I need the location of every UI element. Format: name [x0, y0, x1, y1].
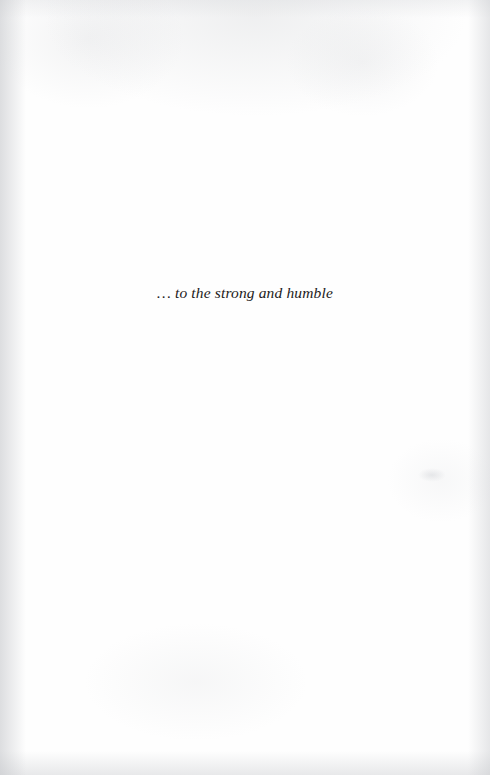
dedication-text: … to the strong and humble — [157, 283, 333, 302]
paper-texture — [0, 0, 490, 775]
dedication-page: … to the strong and humble — [0, 0, 490, 775]
paper-smudge-mark — [418, 468, 446, 482]
dedication-block: … to the strong and humble — [0, 283, 490, 302]
scan-edge-shadow — [0, 0, 490, 775]
